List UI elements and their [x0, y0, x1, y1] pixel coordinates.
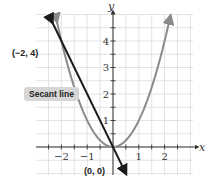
svg-text:x: x	[199, 141, 206, 154]
svg-text:1: 1	[136, 151, 142, 162]
svg-text:y: y	[107, 0, 115, 13]
svg-text:2: 2	[161, 151, 167, 162]
svg-text:−2: −2	[54, 151, 69, 162]
svg-text:1: 1	[103, 115, 109, 126]
point-label-a: (−2, 4)	[12, 48, 38, 58]
secant-line-label: Secant line	[24, 87, 79, 101]
svg-text:2: 2	[103, 89, 109, 100]
svg-text:−1: −1	[80, 151, 95, 162]
svg-text:4: 4	[103, 36, 109, 47]
svg-text:3: 3	[103, 62, 109, 73]
point-label-b: (0, 0)	[84, 166, 105, 176]
